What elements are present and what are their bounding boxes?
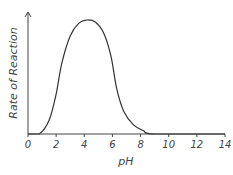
rate-vs-ph-chart: 02468101214 pH Rate of Reaction: [0, 0, 233, 175]
x-tick-label: 2: [53, 139, 59, 150]
y-axis-label: Rate of Reaction: [7, 27, 20, 118]
rate-curve: [28, 20, 225, 134]
x-tick-label: 14: [219, 139, 232, 150]
x-ticks: 02468101214: [25, 134, 232, 150]
axes: [25, 12, 225, 134]
x-tick-label: 10: [162, 139, 175, 150]
x-tick-label: 6: [109, 139, 115, 150]
x-tick-label: 0: [25, 139, 31, 150]
x-axis-label: pH: [117, 155, 133, 168]
x-tick-label: 8: [137, 139, 143, 150]
x-tick-label: 12: [190, 139, 203, 150]
x-tick-label: 4: [81, 139, 87, 150]
